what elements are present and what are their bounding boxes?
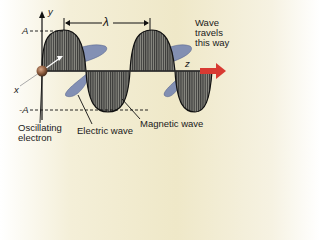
electron-caption: Oscillating electron [18,123,62,143]
direction-caption: Wave travels this way [195,18,229,48]
amplitude-neg-label: -A [19,105,29,115]
electric-wave-label: Electric wave [77,126,133,136]
y-axis-arrowhead [39,11,45,18]
electron-icon [37,66,48,77]
magnetic-leader [122,99,140,119]
magnetic-wave-label: Magnetic wave [140,119,203,129]
amplitude-pos-label: A [22,26,28,36]
electric-leader [78,95,92,124]
z-axis-label: z [185,59,190,69]
y-axis-label: y [48,7,53,17]
em-wave-diagram: y A -A x z λ Wave travels this way Oscil… [0,0,247,149]
x-axis-label: x [14,85,19,95]
wavelength-label: λ [103,17,109,27]
